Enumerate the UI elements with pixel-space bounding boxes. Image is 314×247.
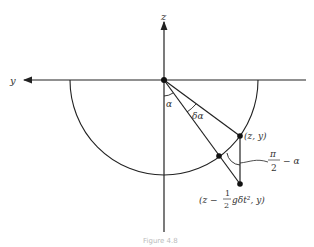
pendulum-diagram: y z α δα (z, y) π 2 − α (z − 1 2 gδt², y…	[0, 0, 314, 247]
z-axis-label: z	[160, 11, 167, 22]
leader-line	[240, 160, 268, 163]
fallen-suffix: gδt², y)	[232, 195, 265, 205]
complement-numerator: π	[269, 149, 277, 159]
point-z-y-label: (z, y)	[244, 131, 267, 141]
complement-arc	[227, 153, 240, 165]
delta-alpha-label: δα	[192, 111, 204, 121]
complement-suffix: − α	[283, 156, 299, 166]
fallen-frac-num: 1	[225, 189, 230, 198]
complement-denominator: 2	[271, 163, 277, 173]
origin-point	[161, 77, 167, 83]
point-z-y	[237, 133, 243, 139]
radius-line-1	[164, 80, 240, 184]
arc-intersection-point	[216, 153, 222, 159]
point-fallen	[237, 181, 243, 187]
alpha-label: α	[166, 99, 172, 109]
figure-caption: Figure 4.8	[143, 237, 178, 245]
fallen-frac-den: 2	[224, 201, 229, 210]
radius-line-2	[164, 80, 240, 136]
alpha-arc	[164, 93, 173, 96]
fallen-prefix: (z −	[199, 195, 218, 205]
y-axis-label: y	[9, 75, 16, 86]
